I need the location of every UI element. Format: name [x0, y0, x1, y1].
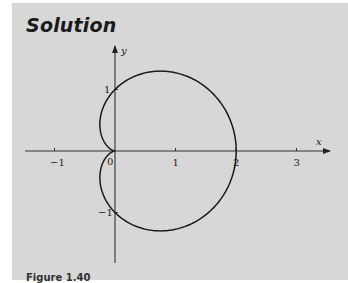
x-tick-label: 3 [294, 157, 300, 168]
y-axis-label: y [120, 45, 127, 56]
y-tick-label: 1 [104, 84, 110, 95]
y-tick-label: −1 [98, 207, 113, 218]
figure-caption: Figure 1.40 [26, 272, 90, 283]
x-axis-label: x [316, 136, 322, 147]
x-tick-label: 1 [173, 157, 179, 168]
x-tick-label: −1 [50, 157, 65, 168]
origin-label: 0 [107, 156, 113, 167]
